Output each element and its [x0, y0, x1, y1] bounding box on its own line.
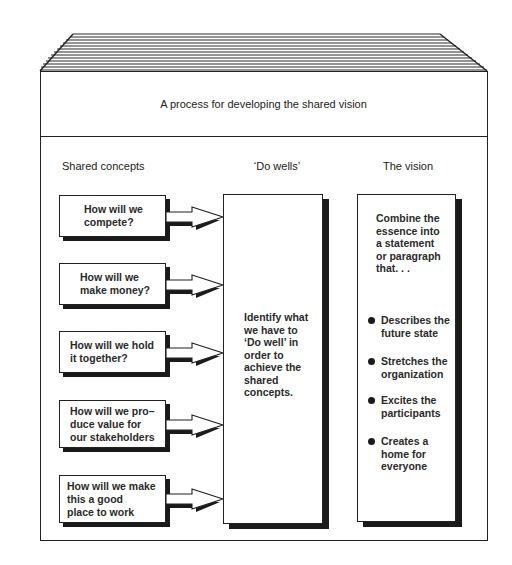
vision-box: Combine the essence into a statement or …	[357, 194, 456, 522]
concept-line: our stakeholders	[70, 431, 157, 444]
concept-line: How will we hold	[70, 339, 157, 352]
concept-box-good-place: How will we make this a good place to wo…	[59, 475, 166, 523]
vision-intro-line: a statement	[376, 237, 441, 250]
vision-intro-line: or paragraph	[376, 250, 441, 263]
bullet-line: Describes the	[381, 314, 450, 327]
concept-box-produce-value: How will we pro– duce value for our stak…	[59, 400, 166, 448]
bullet-icon	[368, 317, 375, 324]
bullet-line: everyone	[381, 460, 428, 473]
concept-line: it together?	[70, 352, 157, 365]
vision-intro: Combine the essence into a statement or …	[376, 212, 441, 275]
do-wells-line: achieve the	[244, 361, 308, 374]
do-wells-line: Identify what	[244, 311, 308, 324]
right-arrow-icon	[166, 414, 224, 440]
bullet-line: Creates a	[381, 435, 428, 448]
right-arrow-icon	[166, 488, 224, 514]
bullet-line: future state	[381, 327, 450, 340]
vision-bullet-future-state: Describes the future state	[368, 314, 450, 339]
do-wells-line: concepts.	[244, 386, 308, 399]
concept-line: How will we	[80, 271, 157, 284]
right-arrow-icon	[166, 342, 224, 368]
concept-line: place to work	[67, 506, 157, 519]
right-arrow-icon	[166, 206, 224, 232]
column-header-vision: The vision	[362, 160, 454, 172]
vision-bullet-excites: Excites the participants	[368, 394, 441, 419]
concept-box-make-money: How will we make money?	[59, 263, 166, 305]
right-arrow-icon	[166, 274, 224, 300]
column-header-do-wells: ‘Do wells’	[232, 160, 322, 172]
concept-line: duce value for	[70, 418, 157, 431]
bullet-icon	[368, 397, 375, 404]
concept-line: How will we	[84, 203, 157, 216]
bullet-line: Stretches the	[381, 355, 448, 368]
vision-intro-line: essence into	[376, 225, 441, 238]
bullet-line: Excites the	[381, 394, 441, 407]
concept-line: How will we pro–	[70, 405, 157, 418]
do-wells-line: we have to	[244, 324, 308, 337]
vision-bullet-stretches: Stretches the organization	[368, 355, 448, 380]
concept-box-hold-together: How will we hold it together?	[59, 331, 166, 373]
concept-box-compete: How will we compete?	[59, 195, 166, 237]
do-wells-line: ‘Do well’ in	[244, 336, 308, 349]
bullet-icon	[368, 438, 375, 445]
concept-line: How will we make	[67, 480, 157, 493]
hatched-roof-icon	[0, 0, 512, 80]
diagram-title: A process for developing the shared visi…	[40, 71, 487, 136]
vision-intro-line: Combine the	[376, 212, 441, 225]
bullet-icon	[368, 358, 375, 365]
column-header-shared-concepts: Shared concepts	[62, 160, 162, 172]
concept-line: this a good	[67, 493, 157, 506]
do-wells-line: shared	[244, 374, 308, 387]
do-wells-line: order to	[244, 349, 308, 362]
concept-line: compete?	[84, 216, 157, 229]
vision-bullet-home: Creates a home for everyone	[368, 435, 428, 473]
do-wells-box: Identify what we have to ‘Do well’ in or…	[223, 194, 323, 524]
bullet-line: organization	[381, 368, 448, 381]
concept-line: make money?	[80, 284, 157, 297]
do-wells-text: Identify what we have to ‘Do well’ in or…	[244, 311, 308, 399]
bullet-line: home for	[381, 448, 428, 461]
bullet-line: participants	[381, 407, 441, 420]
vision-intro-line: that. . .	[376, 262, 441, 275]
